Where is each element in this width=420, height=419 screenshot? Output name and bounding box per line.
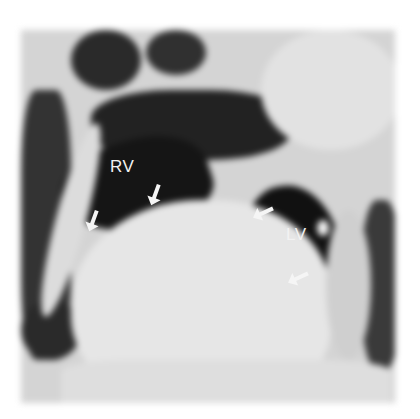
arrow-icon bbox=[142, 182, 168, 208]
label-rv: RV bbox=[110, 157, 134, 177]
annotation-layer: RV LV bbox=[0, 0, 420, 419]
arrow-icon bbox=[250, 200, 276, 226]
arrow-icon bbox=[285, 265, 311, 291]
label-lv: LV bbox=[286, 225, 307, 245]
arrow-icon bbox=[80, 208, 106, 234]
